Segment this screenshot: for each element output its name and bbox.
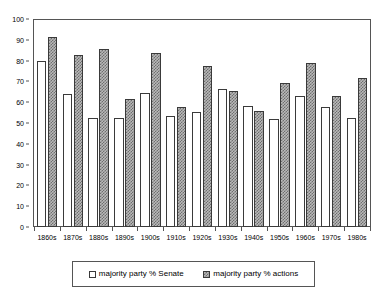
bar-senate (166, 116, 176, 227)
x-axis-tick-mark (267, 227, 268, 231)
bar-senate (269, 119, 279, 227)
bar-group (321, 19, 342, 227)
x-axis-tick-mark (292, 227, 293, 231)
x-axis: 1860s1870s1880s1890s1900s1910s1920s1930s… (34, 233, 370, 245)
y-axis-tick-label: 20 (16, 182, 24, 189)
bar-actions (125, 99, 135, 227)
x-axis-tick-mark (112, 227, 113, 231)
bar-senate (63, 94, 73, 227)
bar-group (88, 19, 109, 227)
x-axis-tick-label: 1960s (296, 233, 315, 242)
x-axis-tick-mark (241, 227, 242, 231)
bar-group (166, 19, 187, 227)
x-axis-tick-mark (344, 227, 345, 231)
x-axis-tick-mark (370, 227, 371, 231)
y-axis-tick-mark (26, 206, 29, 207)
bar-senate (321, 107, 331, 227)
y-axis-tick-mark (26, 185, 29, 186)
bar-actions (203, 66, 213, 227)
legend-item-actions: majority party % actions (203, 269, 298, 279)
bar-senate (140, 93, 150, 227)
bar-actions (358, 78, 368, 227)
y-axis-tick-mark (26, 227, 29, 228)
x-axis-tick-label: 1920s (192, 233, 211, 242)
x-axis-tick-mark (189, 227, 190, 231)
x-axis-tick-label: 1910s (167, 233, 186, 242)
bar-actions (332, 96, 342, 227)
bar-senate (192, 112, 202, 227)
y-axis-tick-label: 50 (16, 120, 24, 127)
x-axis-tick-mark (215, 227, 216, 231)
bars-layer (34, 19, 370, 227)
bar-group (269, 19, 290, 227)
x-axis-tick-mark (86, 227, 87, 231)
y-axis-tick-mark (26, 123, 29, 124)
bar-actions (306, 63, 316, 227)
bar-group (37, 19, 58, 227)
legend-swatch-senate-icon (89, 271, 96, 278)
y-axis-tick-label: 70 (16, 78, 24, 85)
bar-actions (177, 107, 187, 227)
y-axis-tick-mark (26, 60, 29, 61)
chart-legend: majority party % Senate majority party %… (72, 261, 315, 287)
bar-senate (37, 61, 47, 227)
x-axis-tick-label: 1880s (89, 233, 108, 242)
legend-swatch-actions-icon (203, 271, 210, 278)
bar-senate (218, 89, 228, 227)
bar-group (295, 19, 316, 227)
x-axis-tick-label: 1980s (348, 233, 367, 242)
bar-group (347, 19, 368, 227)
bar-actions (74, 55, 84, 227)
x-axis-tick-label: 1900s (141, 233, 160, 242)
y-axis-tick-label: 0 (20, 224, 24, 231)
bar-group (140, 19, 161, 227)
legend-label-actions: majority party % actions (213, 269, 298, 279)
x-axis-tick-label: 1930s (218, 233, 237, 242)
bar-actions (48, 37, 58, 227)
legend-item-senate: majority party % Senate (89, 269, 184, 279)
bar-group (192, 19, 213, 227)
y-axis: 0102030405060708090100 (0, 19, 29, 227)
y-axis-tick-mark (26, 19, 29, 20)
bar-group (218, 19, 239, 227)
bar-group (243, 19, 264, 227)
bar-actions (99, 49, 109, 227)
y-axis-tick-label: 60 (16, 99, 24, 106)
bar-senate (243, 106, 253, 227)
y-axis-tick-label: 100 (12, 16, 24, 23)
y-axis-tick-label: 80 (16, 57, 24, 64)
bar-group (114, 19, 135, 227)
bar-senate (88, 118, 98, 227)
x-axis-tick-label: 1860s (37, 233, 56, 242)
x-axis-tick-mark (34, 227, 35, 231)
bar-senate (295, 96, 305, 227)
y-axis-tick-mark (26, 143, 29, 144)
legend-label-senate: majority party % Senate (99, 269, 184, 279)
x-axis-tick-mark (60, 227, 61, 231)
x-axis-tick-label: 1970s (322, 233, 341, 242)
x-axis-tick-label: 1870s (63, 233, 82, 242)
x-axis-tick-label: 1950s (270, 233, 289, 242)
bar-actions (151, 53, 161, 227)
y-axis-tick-label: 10 (16, 203, 24, 210)
bar-senate (114, 118, 124, 227)
bar-group (63, 19, 84, 227)
bar-actions (254, 111, 264, 227)
x-axis-tick-mark (318, 227, 319, 231)
bar-chart: 0102030405060708090100 1860s1870s1880s18… (0, 0, 385, 305)
y-axis-tick-label: 40 (16, 140, 24, 147)
bar-actions (229, 91, 239, 227)
x-axis-tick-mark (137, 227, 138, 231)
y-axis-tick-label: 90 (16, 36, 24, 43)
y-axis-tick-label: 30 (16, 161, 24, 168)
y-axis-tick-mark (26, 81, 29, 82)
bar-senate (347, 118, 357, 227)
x-axis-ticks (34, 227, 370, 231)
y-axis-tick-mark (26, 164, 29, 165)
y-axis-tick-mark (26, 39, 29, 40)
x-axis-tick-label: 1890s (115, 233, 134, 242)
y-axis-tick-mark (26, 102, 29, 103)
bar-actions (280, 83, 290, 227)
x-axis-tick-label: 1940s (244, 233, 263, 242)
x-axis-tick-mark (163, 227, 164, 231)
